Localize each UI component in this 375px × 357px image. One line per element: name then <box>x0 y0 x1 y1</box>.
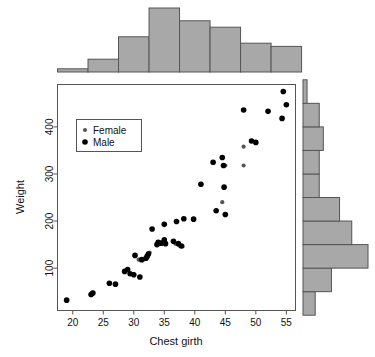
scatter-point-male <box>284 102 290 108</box>
scatter-point-male <box>210 159 216 165</box>
scatter-point-female <box>242 163 246 167</box>
top-marginal-histogram <box>58 8 302 72</box>
scatter-point-male <box>181 216 187 222</box>
scatter-point-male <box>146 251 152 257</box>
x-tick-label: 35 <box>159 317 171 328</box>
right-hist-bar <box>303 80 307 104</box>
scatter-point-male <box>219 155 225 161</box>
scatter-point-male <box>198 182 204 188</box>
scatter-point-male <box>223 212 229 218</box>
right-hist-bar <box>303 221 352 245</box>
scatter-point-male <box>174 219 180 225</box>
legend: Female Male <box>77 120 142 152</box>
right-hist-bar <box>303 150 319 174</box>
scatter-point-male <box>265 109 271 115</box>
right-hist-bar <box>303 292 315 316</box>
right-hist-bar <box>303 268 331 292</box>
scatter-point-male <box>279 116 285 122</box>
top-hist-bar <box>149 8 180 72</box>
scatter-point-male <box>221 184 227 190</box>
right-marginal-histogram <box>303 80 368 315</box>
scatter-point-male <box>161 222 167 228</box>
top-hist-bar <box>88 59 119 72</box>
scatter-point-male <box>113 281 119 287</box>
scatter-point-male <box>253 140 259 146</box>
y-axis-ticks: 100200300400 <box>44 118 58 276</box>
scatter-point-male <box>163 241 169 247</box>
scatter-point-female <box>220 200 224 204</box>
scatter-point-male <box>171 238 177 244</box>
right-hist-bar <box>303 174 319 198</box>
scatter-series-female <box>65 145 246 303</box>
x-tick-label: 30 <box>128 317 140 328</box>
figure-container: 2025303540455055 100200300400 Chest girt… <box>0 0 375 357</box>
x-tick-label: 45 <box>220 317 232 328</box>
scatter-point-male <box>221 163 227 169</box>
top-hist-bar <box>241 43 272 72</box>
plot-frame <box>58 85 296 311</box>
top-hist-bar <box>180 21 211 72</box>
scatter-point-male <box>131 272 137 278</box>
top-hist-bar <box>58 69 89 72</box>
scatter-point-male <box>149 226 155 232</box>
top-hist-bar <box>210 27 241 72</box>
scatter-with-marginal-histograms: 2025303540455055 100200300400 Chest girt… <box>0 0 375 357</box>
scatter-point-male <box>241 107 247 113</box>
scatter-point-male <box>137 274 143 280</box>
x-tick-label: 25 <box>98 317 110 328</box>
x-axis-ticks: 2025303540455055 <box>67 311 292 328</box>
scatter-point-male <box>64 297 70 303</box>
y-axis-label: Weight <box>14 180 26 214</box>
legend-marker-female <box>83 128 87 132</box>
scatter-point-male <box>191 216 197 222</box>
y-tick-label: 200 <box>44 212 55 229</box>
scatter-point-male <box>179 243 185 249</box>
x-axis-label: Chest girth <box>149 335 202 347</box>
right-hist-bar <box>303 245 368 269</box>
scatter-point-male <box>213 208 219 214</box>
scatter-point-male <box>280 89 286 95</box>
legend-label-female: Female <box>93 125 127 136</box>
x-tick-label: 50 <box>250 317 262 328</box>
legend-label-male: Male <box>93 137 115 148</box>
scatter-point-male <box>107 280 113 286</box>
scatter-point-male <box>90 290 96 296</box>
top-hist-bar <box>271 46 302 72</box>
x-tick-label: 40 <box>189 317 201 328</box>
legend-marker-male <box>82 139 88 145</box>
top-hist-bar <box>119 37 150 72</box>
x-tick-label: 55 <box>281 317 293 328</box>
scatter-point-male <box>132 253 138 259</box>
y-tick-label: 400 <box>44 118 55 135</box>
y-tick-label: 300 <box>44 165 55 182</box>
right-hist-bar <box>303 127 323 151</box>
y-tick-label: 100 <box>44 259 55 276</box>
scatter-point-female <box>242 145 246 149</box>
right-hist-bar <box>303 198 340 222</box>
right-hist-bar <box>303 103 319 127</box>
x-tick-label: 20 <box>67 317 79 328</box>
